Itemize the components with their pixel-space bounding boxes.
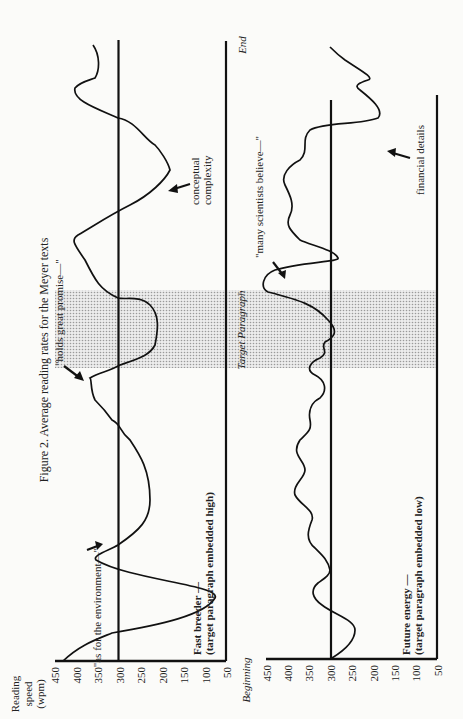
tick-label: 350 [92, 667, 104, 684]
tick-label: 300 [325, 665, 337, 682]
reading-rates-chart: Figure 2. Average reading rates for the … [0, 0, 463, 719]
annotation-complexity: complexity [201, 155, 213, 205]
tick-label: 300 [114, 667, 126, 684]
arrowhead-icon [387, 148, 396, 157]
ylabel-line1: Reading [9, 675, 21, 712]
end-label: End [236, 36, 248, 55]
target-paragraph-label: Target Paragraph [235, 290, 247, 369]
ylabel-line2: speed [22, 681, 34, 707]
tick-label: 100 [200, 667, 212, 684]
tick-label: 50 [221, 667, 233, 679]
tick-label: 400 [71, 667, 83, 684]
panel-label-line2: (target paragraph embedded low) [412, 496, 425, 655]
tick-label: 250 [346, 665, 358, 682]
tick-label: 150 [389, 665, 401, 682]
ticks-bottom: 450 400 350 300 250 200 150 100 50 [261, 665, 444, 682]
tick-label: 200 [368, 665, 380, 682]
annotation-conceptual: conceptual [189, 157, 201, 205]
ticks-top: 450 400 350 300 250 200 150 100 50 [49, 667, 233, 684]
tick-label: 450 [49, 667, 61, 684]
panel-label-line1: Future energy — [400, 574, 412, 655]
tick-label: 50 [432, 665, 444, 677]
panel-future-energy: "many scientists believe—" financial det… [236, 36, 444, 703]
tick-label: 450 [261, 665, 273, 682]
tick-label: 200 [157, 667, 169, 684]
annotation-financial-details: financial details [414, 125, 426, 195]
figure-title: Figure 2. Average reading rates for the … [37, 237, 51, 482]
panel-label-line2: (target paragraph embedded high) [203, 492, 216, 655]
beginning-label: Beginning [240, 657, 252, 703]
tick-label: 250 [135, 667, 147, 684]
arrowhead-icon [168, 184, 178, 193]
tick-label: 150 [178, 667, 190, 684]
ylabel-line3: (wpm) [34, 679, 47, 709]
tick-label: 350 [303, 665, 315, 682]
tick-label: 100 [410, 665, 422, 682]
annotation-as-for-environment: "as for the environment—" [91, 548, 103, 667]
panel-label-line1: Fast breeder — [191, 581, 203, 655]
arrow-financial-details [393, 153, 410, 158]
annotation-holds-great-promise: "holds great promise—" [53, 259, 65, 366]
tick-label: 400 [282, 665, 294, 682]
annotation-many-scientists: "many scientists believe—" [253, 136, 265, 258]
